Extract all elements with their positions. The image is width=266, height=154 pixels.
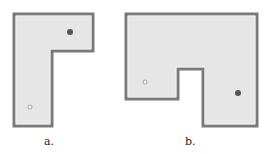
figure-b-room xyxy=(126,14,257,126)
filled-dot-b xyxy=(235,90,241,96)
figure-a-room xyxy=(14,14,93,126)
figure-a-label: a. xyxy=(44,135,54,148)
hollow-dot-a xyxy=(28,105,32,109)
filled-dot-a xyxy=(67,29,73,35)
diagram-canvas xyxy=(0,0,266,154)
hollow-dot-b xyxy=(143,80,147,84)
figure-b-label: b. xyxy=(185,135,196,148)
